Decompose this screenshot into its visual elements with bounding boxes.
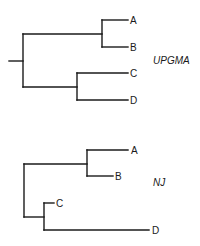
method-label-nj: NJ	[153, 177, 166, 188]
nj-tree: A B C D NJ	[24, 145, 166, 236]
upgma-tree: A B C D UPGMA	[9, 15, 190, 106]
tip-label-a: A	[131, 145, 138, 156]
tip-label-d: D	[130, 95, 137, 106]
tip-label-c: C	[130, 68, 137, 79]
tip-label-c: C	[56, 198, 63, 209]
tip-label-b: B	[115, 171, 122, 182]
tip-label-d: D	[152, 225, 159, 236]
tip-label-b: B	[130, 42, 137, 53]
method-label-upgma: UPGMA	[153, 55, 190, 66]
phylogeny-comparison-figure: A B C D UPGMA A B C D NJ	[0, 0, 200, 246]
tip-label-a: A	[130, 15, 137, 26]
